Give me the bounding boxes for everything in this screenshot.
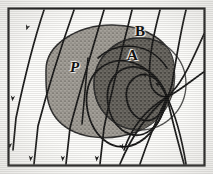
region-label-b: B	[135, 24, 145, 39]
region-label-a: A	[127, 48, 138, 63]
diagram-svg	[0, 0, 213, 174]
region-label-p: P	[70, 60, 79, 75]
figure-canvas: P A B	[0, 0, 213, 174]
null-point-marker	[165, 95, 170, 100]
